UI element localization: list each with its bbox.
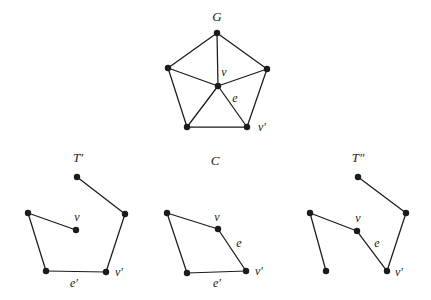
vertex-right [403, 210, 409, 216]
graph-title-C: C [211, 153, 220, 168]
edge-left-bl [310, 213, 326, 271]
vertex-left [25, 210, 31, 216]
figure-svg: Gvev′T′ve′v′Cvee′v′T″vev′ [0, 0, 431, 300]
vertex-left [164, 210, 170, 216]
label-G-1: e [232, 91, 238, 105]
edge-v-bl [187, 86, 218, 127]
vertex-right [122, 211, 128, 217]
label-T-prime-2: v′ [115, 265, 123, 279]
vertex-v [215, 226, 221, 232]
graph-G: Gvev′ [165, 9, 270, 134]
label-T-doubleprime-0: v [355, 211, 361, 225]
edge-v-left [310, 213, 357, 231]
edge-left-v [28, 213, 76, 230]
graph-T-prime: T′ve′v′ [25, 150, 128, 290]
edge-right-vp [247, 69, 267, 127]
edge-v-top [217, 33, 218, 86]
vertex-bl [184, 270, 190, 276]
edge-top-right [358, 177, 406, 213]
label-G-0: v [221, 65, 227, 79]
label-C-3: v′ [255, 264, 263, 278]
vertex-left [165, 65, 171, 71]
label-C-1: e [236, 236, 242, 250]
edge-left-v [167, 213, 218, 229]
vertex-top [74, 174, 80, 180]
edge-vp-bl [187, 271, 246, 273]
vertex-vp [243, 268, 249, 274]
vertex-v [354, 228, 360, 234]
vertex-bl [323, 268, 329, 274]
graph-title-T-prime: T′ [73, 150, 83, 165]
graph-title-G: G [212, 9, 222, 24]
edge-top-left [168, 33, 217, 68]
vertex-v [215, 83, 221, 89]
edge-left-bl [168, 68, 187, 127]
label-T-doubleprime-2: v′ [395, 265, 403, 279]
vertex-right [264, 66, 270, 72]
vertex-bl [184, 124, 190, 130]
vertex-bl [43, 268, 49, 274]
graph-theory-figure: Gvev′T′ve′v′Cvee′v′T″vev′ [0, 0, 431, 300]
edge-v-left [168, 68, 218, 86]
vertex-vp [244, 124, 250, 130]
graph-C: Cvee′v′ [164, 153, 264, 290]
vertex-top [214, 30, 220, 36]
edge-bl-left [167, 213, 187, 273]
label-C-2: e′ [213, 276, 221, 290]
edge-right-vp [387, 213, 406, 271]
label-T-prime-0: v [74, 210, 80, 224]
graph-T-doubleprime: T″vev′ [307, 150, 409, 279]
edge-bl-left [28, 213, 46, 271]
vertex-v [73, 227, 79, 233]
edge-right-vp [106, 214, 125, 272]
vertex-vp [103, 269, 109, 275]
graph-title-T-doubleprime: T″ [352, 150, 365, 165]
edge-vp-bl [46, 271, 106, 272]
label-T-prime-1: e′ [70, 276, 78, 290]
edge-top-right [77, 177, 125, 214]
label-C-0: v [214, 210, 220, 224]
label-G-2: v′ [258, 120, 266, 134]
vertex-left [307, 210, 313, 216]
edge-top-right [217, 33, 267, 69]
edge-v-vp [218, 229, 246, 271]
label-T-doubleprime-1: e [374, 236, 380, 250]
edge-vp-v [357, 231, 387, 271]
vertex-vp [384, 268, 390, 274]
vertex-top [355, 174, 361, 180]
